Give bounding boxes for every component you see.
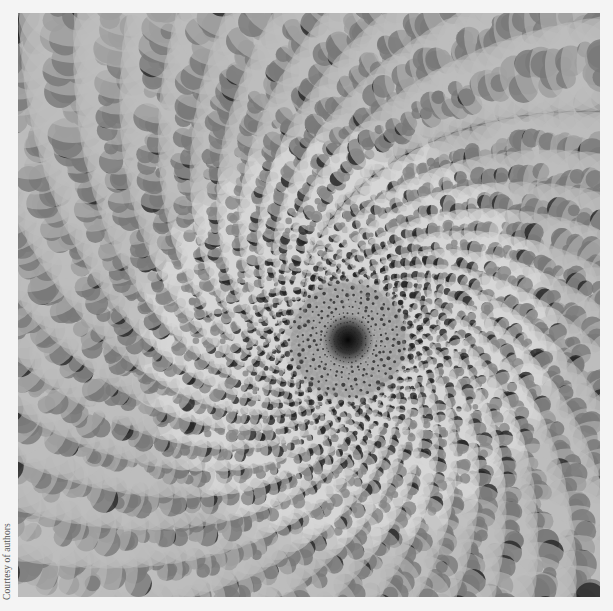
fractal-spiral-image bbox=[18, 13, 600, 597]
fractal-graphic bbox=[18, 13, 600, 597]
image-credit: Courtesy of authors bbox=[2, 523, 12, 600]
